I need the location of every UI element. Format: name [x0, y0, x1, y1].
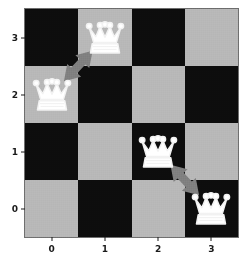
x-tick-label-3: 3: [208, 245, 214, 254]
board-square-1-2[interactable]: [78, 66, 131, 123]
board-square-2-3[interactable]: [132, 9, 185, 66]
board-square-1-3[interactable]: [78, 9, 131, 66]
y-tick-mark-1: [21, 151, 25, 152]
board-square-3-1[interactable]: [185, 123, 238, 180]
x-tick-label-1: 1: [102, 245, 108, 254]
x-tick-mark-1: [104, 237, 105, 241]
x-tick-label-0: 0: [48, 245, 54, 254]
board-square-0-2[interactable]: [25, 66, 78, 123]
board-square-0-1[interactable]: [25, 123, 78, 180]
board-square-2-2[interactable]: [132, 66, 185, 123]
board-square-3-3[interactable]: [185, 9, 238, 66]
board-square-1-1[interactable]: [78, 123, 131, 180]
y-tick-label-2: 2: [12, 90, 18, 99]
board-square-1-0[interactable]: [78, 180, 131, 237]
y-tick-mark-2: [21, 94, 25, 95]
y-tick-mark-0: [21, 208, 25, 209]
x-tick-label-2: 2: [155, 245, 161, 254]
board-square-3-0[interactable]: [185, 180, 238, 237]
chessboard-grid: [25, 9, 238, 237]
x-tick-mark-2: [158, 237, 159, 241]
x-tick-mark-3: [211, 237, 212, 241]
board-square-2-1[interactable]: [132, 123, 185, 180]
y-tick-label-0: 0: [12, 204, 18, 213]
x-tick-mark-0: [51, 237, 52, 241]
board-square-2-0[interactable]: [132, 180, 185, 237]
y-tick-label-3: 3: [12, 33, 18, 42]
board-square-0-0[interactable]: [25, 180, 78, 237]
board-square-3-2[interactable]: [185, 66, 238, 123]
board-square-0-3[interactable]: [25, 9, 78, 66]
y-tick-label-1: 1: [12, 147, 18, 156]
chess-board-figure: 3210 0123: [0, 0, 252, 264]
y-tick-mark-3: [21, 37, 25, 38]
